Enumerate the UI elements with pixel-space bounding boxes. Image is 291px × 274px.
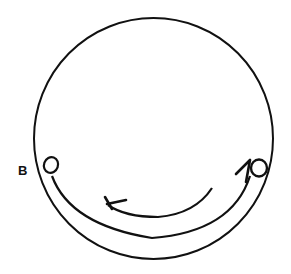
inner-arc [52,176,250,238]
outer-circle [34,18,273,259]
right-tick-mark [236,160,250,182]
arrowhead-icon [105,197,126,209]
left-loop [42,155,61,175]
label-b: B [18,163,27,178]
circular-diagram: B [0,0,291,274]
right-loop [251,160,267,177]
arrow-arc [108,188,212,217]
